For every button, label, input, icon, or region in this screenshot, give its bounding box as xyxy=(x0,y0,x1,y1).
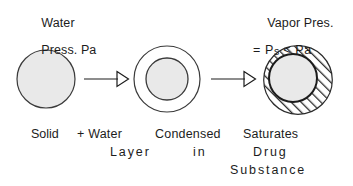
label-vapor-pressure: Vapor Pres. = Ps < Pa xyxy=(253,3,333,84)
label-water-pressure-line2: Press. Pa xyxy=(41,43,96,57)
label-vapor-pressure-line1: Vapor Pres. xyxy=(267,16,333,30)
water-layer-inner-circle xyxy=(146,58,188,100)
label-vapor-pressure-line2: = Ps < Pa xyxy=(253,44,333,58)
caption-in: in xyxy=(193,146,207,160)
diagram-canvas: Water Press. Pa Vapor Pres. = Ps < Pa So… xyxy=(0,0,353,186)
label-water-pressure-line1: Water xyxy=(41,16,74,30)
caption-substance: Substance xyxy=(230,164,306,178)
vapor-pressure-prefix: = P xyxy=(253,43,274,57)
caption-saturates: Saturates xyxy=(243,128,298,142)
caption-layer: Layer xyxy=(110,146,151,160)
caption-plus-water: + Water xyxy=(77,128,122,142)
caption-drug: Drug xyxy=(253,146,288,160)
caption-condensed: Condensed xyxy=(155,128,221,142)
arrow-2 xyxy=(211,72,256,87)
vapor-pressure-suffix: < Pa xyxy=(279,43,312,57)
caption-solid: Solid xyxy=(31,128,59,142)
arrow-1 xyxy=(84,72,129,87)
label-water-pressure: Water Press. Pa xyxy=(27,3,96,71)
water-layer-particle xyxy=(134,46,200,112)
